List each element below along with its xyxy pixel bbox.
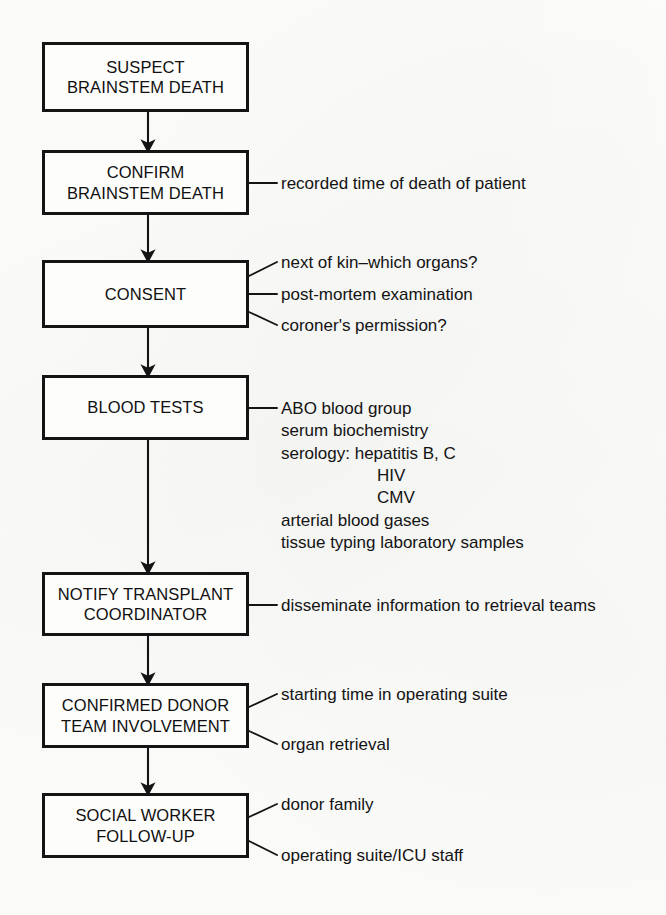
node-label-line1: SOCIAL WORKER — [75, 805, 215, 825]
annotation-social-operating-suite-icu-staff: operating suite/ICU staff — [281, 845, 463, 867]
annotation-serum-biochemistry: serum biochemistry — [281, 420, 524, 442]
annotation-block-blood-tests: ABO blood group serum biochemistry serol… — [281, 398, 524, 554]
node-label-line1: CONFIRM — [107, 162, 185, 182]
node-label-line1: SUSPECT — [106, 57, 185, 77]
annotation-serology-hepatitis: serology: hepatitis B, C — [281, 443, 524, 465]
annotation-donor-organ-retrieval: organ retrieval — [281, 734, 390, 756]
annotation-consent-post-mortem: post-mortem examination — [281, 284, 473, 306]
node-consent[interactable]: CONSENT — [42, 260, 249, 328]
node-confirmed-donor-team-involvement[interactable]: CONFIRMED DONOR TEAM INVOLVEMENT — [42, 683, 249, 748]
annotation-notify-disseminate-information: disseminate information to retrieval tea… — [281, 595, 596, 617]
annotation-donor-starting-time: starting time in operating suite — [281, 684, 508, 706]
annotation-consent-coroner-permission: coroner's permission? — [281, 315, 447, 337]
annotation-serology-cmv: CMV — [281, 487, 524, 509]
annotation-tissue-typing-samples: tissue typing laboratory samples — [281, 532, 524, 554]
node-label-line1: NOTIFY TRANSPLANT — [58, 584, 233, 604]
node-blood-tests[interactable]: BLOOD TESTS — [42, 375, 249, 440]
annotation-arterial-blood-gases: arterial blood gases — [281, 510, 524, 532]
node-label-line2: TEAM INVOLVEMENT — [61, 716, 230, 736]
node-confirm-brainstem-death[interactable]: CONFIRM BRAINSTEM DEATH — [42, 150, 249, 215]
node-suspect-brainstem-death[interactable]: SUSPECT BRAINSTEM DEATH — [42, 42, 249, 112]
node-notify-transplant-coordinator[interactable]: NOTIFY TRANSPLANT COORDINATOR — [42, 572, 249, 636]
node-label-line2: COORDINATOR — [84, 604, 207, 624]
annotation-abo-blood-group: ABO blood group — [281, 398, 524, 420]
flowchart-page: SUSPECT BRAINSTEM DEATH CONFIRM BRAINSTE… — [0, 0, 666, 915]
annotation-consent-next-of-kin: next of kin–which organs? — [281, 252, 478, 274]
node-label-line2: BRAINSTEM DEATH — [67, 183, 224, 203]
page-bottom-caption-remnant — [18, 899, 638, 911]
node-label-line1: CONFIRMED DONOR — [62, 695, 229, 715]
node-social-worker-follow-up[interactable]: SOCIAL WORKER FOLLOW-UP — [42, 793, 249, 858]
annotation-confirm-recorded-time: recorded time of death of patient — [281, 173, 526, 195]
annotation-serology-hiv: HIV — [281, 465, 524, 487]
node-label-line2: BRAINSTEM DEATH — [67, 77, 224, 97]
node-label-line1: BLOOD TESTS — [87, 397, 203, 417]
content-layer: SUSPECT BRAINSTEM DEATH CONFIRM BRAINSTE… — [0, 0, 666, 915]
node-label-line1: CONSENT — [105, 284, 186, 304]
node-label-line2: FOLLOW-UP — [96, 826, 195, 846]
annotation-social-donor-family: donor family — [281, 794, 374, 816]
